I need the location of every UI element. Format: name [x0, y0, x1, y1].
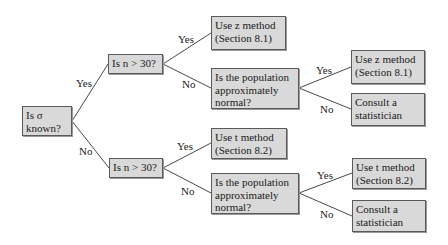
node-text: approximately: [215, 189, 295, 202]
node-text: Use z method: [355, 53, 421, 66]
edge-label-yes: Yes: [76, 77, 92, 89]
edge-label-yes: Yes: [178, 33, 194, 45]
edge-label-no: No: [320, 103, 333, 115]
edge-label-no: No: [320, 208, 333, 220]
node-text: Use z method: [215, 19, 282, 32]
node-sigma-known: Is σ known?: [22, 106, 72, 136]
node-text: Is the population: [215, 176, 295, 189]
node-use-t-direct: Use t method (Section 8.2): [211, 128, 287, 159]
node-text: statistician: [356, 216, 422, 229]
node-text: (Section 8.1): [355, 66, 421, 79]
node-consult-top: Consult a statistician: [351, 93, 425, 126]
edge-label-no: No: [182, 78, 195, 90]
node-text: Is σ: [26, 109, 68, 122]
node-text: Is n > 30?: [113, 161, 159, 174]
node-use-z-direct: Use z method (Section 8.1): [211, 16, 286, 50]
node-text: known?: [26, 122, 68, 135]
node-text: Consult a: [356, 203, 422, 216]
node-text: (Section 8.2): [356, 174, 422, 187]
edge-label-yes: Yes: [177, 140, 193, 152]
node-n-gt-30-top: Is n > 30?: [108, 54, 163, 74]
edge-label-yes: Yes: [316, 64, 332, 76]
node-n-gt-30-bottom: Is n > 30?: [109, 158, 163, 178]
node-use-z-normal: Use z method (Section 8.1): [351, 50, 425, 84]
node-text: Is n > 30?: [112, 57, 159, 70]
edge-label-no: No: [181, 185, 194, 197]
edge-label-no: No: [79, 145, 92, 157]
node-text: approximately: [215, 84, 295, 97]
node-text: Consult a: [355, 96, 421, 109]
node-normal-top: Is the population approximately normal?: [211, 68, 299, 109]
node-text: Use t method: [356, 161, 422, 174]
node-text: statistician: [355, 109, 421, 122]
node-text: (Section 8.1): [215, 32, 282, 45]
node-text: Use t method: [215, 131, 283, 144]
node-text: normal?: [215, 96, 295, 109]
node-text: normal?: [215, 201, 295, 214]
node-normal-bottom: Is the population approximately normal?: [211, 173, 299, 214]
edge-label-yes: Yes: [317, 169, 333, 181]
node-consult-bottom: Consult a statistician: [352, 200, 426, 232]
node-text: Is the population: [215, 71, 295, 84]
node-use-t-normal: Use t method (Section 8.2): [352, 158, 426, 189]
node-text: (Section 8.2): [215, 144, 283, 157]
